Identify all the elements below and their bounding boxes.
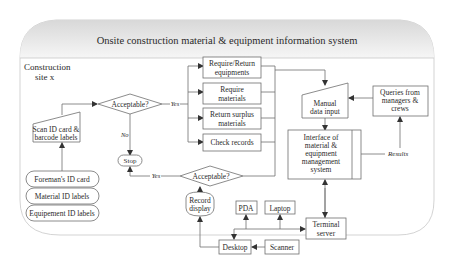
desktop-device: Desktop [219,240,251,254]
record-display: Record display [186,192,214,216]
stop-terminal: Stop [118,155,142,166]
svg-text:Desktop: Desktop [223,243,248,252]
svg-text:Terminal: Terminal [313,220,340,229]
svg-text:Acceptable?: Acceptable? [111,100,149,109]
svg-text:Check records: Check records [210,138,253,147]
edge-label-results: Results [387,150,408,158]
svg-text:Construction: Construction [24,62,71,72]
svg-text:barcode labels: barcode labels [34,133,77,142]
require-materials: Require materials [203,83,261,104]
interface-management-system: Interface of material & equipment manage… [288,130,361,179]
diagram-title: Onsite construction material & equipment… [97,35,358,46]
queries-from-managers: Queries from managers & crews [373,86,428,116]
equipment-id-labels: Equipement ID labels [26,205,99,221]
svg-text:system: system [311,165,332,174]
scanner-device: Scanner [265,240,299,254]
svg-text:Require/Return: Require/Return [209,59,255,68]
material-id-labels: Material ID labels [26,188,99,204]
pda-device: PDA [236,201,257,214]
svg-text:crews: crews [391,104,409,113]
svg-text:Foreman's ID card: Foreman's ID card [34,175,90,184]
svg-text:materials: materials [218,119,246,128]
svg-text:Stop: Stop [124,157,137,165]
svg-text:equipments: equipments [215,68,250,77]
diagram-canvas: Onsite construction material & equipment… [0,0,453,277]
svg-text:Laptop: Laptop [269,204,290,213]
svg-text:site x: site x [35,72,55,82]
svg-text:materials: materials [218,94,246,103]
terminal-server: Terminal server [306,218,346,239]
edge-label-yes-2: Yes [152,172,161,179]
svg-text:Acceptable?: Acceptable? [192,172,230,181]
svg-text:PDA: PDA [238,204,254,213]
laptop-device: Laptop [265,201,295,214]
require-return-equipments: Require/Return equipments [203,57,261,78]
svg-text:display: display [189,204,211,213]
foreman-id-card: Foreman's ID card [26,171,99,187]
svg-text:server: server [317,229,336,238]
svg-text:data input: data input [310,107,341,116]
svg-text:Require: Require [220,85,244,94]
check-records: Check records [203,134,261,151]
svg-text:Equipement ID labels: Equipement ID labels [29,209,94,218]
svg-text:Scanner: Scanner [270,243,295,252]
svg-text:Material ID labels: Material ID labels [35,192,90,201]
edge-label-no: No [120,131,129,138]
svg-text:Return surplus: Return surplus [210,110,254,119]
return-surplus-materials: Return surplus materials [203,108,261,129]
edge-label-yes-1: Yes [171,100,180,107]
